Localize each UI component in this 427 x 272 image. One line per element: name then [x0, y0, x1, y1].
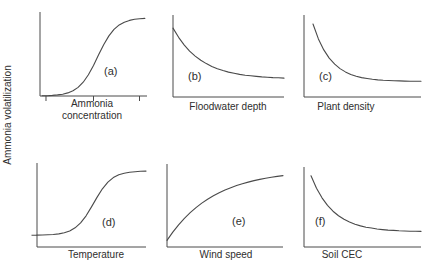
figure-canvas: Ammonia volatilization (a) Ammonia conce…	[0, 0, 427, 272]
panel-a-xlabel: Ammonia concentration	[47, 98, 137, 122]
panel-f-xlabel: Soil CEC	[282, 249, 402, 261]
panel-c-tag: (c)	[319, 70, 332, 82]
panel-a-chart	[34, 12, 147, 102]
panel-d-xlabel: Temperature	[36, 249, 156, 261]
panel-d-chart	[31, 163, 146, 253]
panel-c-chart	[298, 15, 421, 103]
panel-e-tag: (e)	[232, 215, 245, 227]
panel-a-tag: (a)	[104, 65, 117, 77]
panel-f-chart	[298, 167, 421, 253]
panel-d-tag: (d)	[102, 216, 115, 228]
panel-b-xlabel: Floodwater depth	[168, 101, 288, 113]
y-axis-label: Ammonia volatilization	[2, 35, 18, 195]
panel-f-tag: (f)	[315, 215, 325, 227]
panel-e-chart	[161, 164, 283, 253]
panel-b-tag: (b)	[188, 70, 201, 82]
panel-c-xlabel: Plant density	[286, 101, 406, 113]
panel-e-xlabel: Wind speed	[166, 249, 286, 261]
panel-b-chart	[167, 15, 284, 103]
